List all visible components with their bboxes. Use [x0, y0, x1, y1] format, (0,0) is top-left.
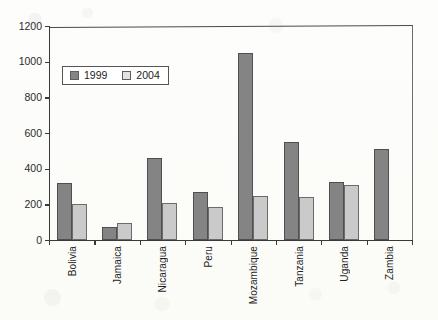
bar-group — [94, 26, 139, 240]
x-axis-tick-mark — [140, 240, 141, 245]
x-axis-label-jamaica: Jamaica — [112, 246, 123, 284]
bar-2004 — [344, 185, 359, 240]
bar-1999 — [193, 192, 208, 240]
bar-2004 — [162, 203, 177, 240]
y-axis-tick-label: 800 — [24, 92, 42, 103]
bar-2004 — [208, 207, 223, 240]
bar-1999 — [57, 183, 72, 240]
bar-1999 — [284, 142, 299, 240]
bars-layer — [49, 26, 412, 240]
legend-label-1999: 1999 — [84, 70, 107, 81]
bar-group — [49, 26, 94, 240]
x-axis-tick-mark — [367, 240, 368, 245]
y-axis-tick-label: 0 — [36, 234, 42, 245]
x-axis-label-peru: Peru — [203, 246, 214, 268]
chart-legend: 1999 2004 — [62, 66, 169, 85]
x-axis-tick-mark — [231, 240, 232, 245]
x-axis-tick-mark — [49, 240, 50, 245]
x-axis-tick-mark — [185, 240, 186, 245]
bar-1999 — [329, 182, 344, 240]
x-axis-tick-mark — [94, 240, 95, 245]
x-axis-tick-mark — [276, 240, 277, 245]
x-axis-tick-mark — [412, 240, 413, 245]
x-axis-label-nicaragua: Nicaragua — [157, 246, 168, 292]
bar-group — [276, 26, 321, 240]
x-axis-tick-mark — [321, 240, 322, 245]
bar-1999 — [374, 149, 389, 240]
x-axis-label-bolivia: Bolivia — [67, 246, 78, 276]
bar-2004 — [117, 223, 132, 240]
bar-1999 — [102, 227, 117, 240]
x-axis-label-tanzania: Tanzania — [294, 246, 305, 287]
y-axis-tick-label: 1000 — [19, 56, 42, 67]
legend-entry: 2004 — [122, 70, 159, 81]
y-axis-tick-label: 600 — [24, 127, 42, 138]
y-axis-tick-label: 1200 — [19, 20, 42, 31]
legend-label-2004: 2004 — [136, 70, 159, 81]
bar-1999 — [238, 53, 253, 240]
bar-2004 — [299, 197, 314, 240]
y-axis-tick-label: 200 — [24, 199, 42, 210]
bar-1999 — [147, 158, 162, 240]
bar-2004 — [72, 204, 87, 240]
x-axis-label-zambia: Zambia — [384, 246, 395, 280]
bar-group — [321, 26, 366, 240]
bar-group — [231, 26, 276, 240]
bar-group — [367, 26, 412, 240]
legend-swatch-1999-icon — [70, 71, 79, 80]
bar-2004 — [253, 196, 268, 240]
bar-group — [185, 26, 230, 240]
y-axis-tick-label: 400 — [24, 163, 42, 174]
legend-swatch-2004-icon — [122, 71, 131, 80]
legend-entry: 1999 — [70, 70, 107, 81]
x-axis-label-mozambique: Mozambique — [248, 246, 259, 304]
x-axis-label-uganda: Uganda — [339, 246, 350, 282]
bar-group — [140, 26, 185, 240]
grouped-bar-chart: 120010008006004002000 BoliviaJamaicaNica… — [0, 0, 438, 320]
